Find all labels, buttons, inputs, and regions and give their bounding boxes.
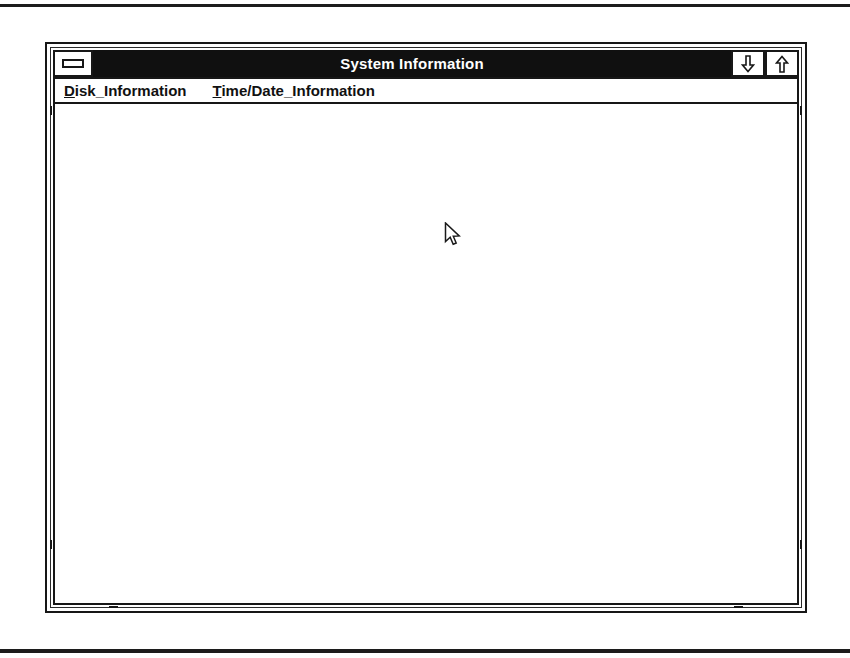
window-menu-button[interactable] — [53, 50, 93, 77]
page-rule-bottom — [0, 649, 850, 653]
minimize-button[interactable] — [731, 50, 765, 77]
titlebar-row: System Information — [53, 50, 799, 77]
system-information-window[interactable]: System Information Disk_Information Time… — [45, 42, 807, 613]
menu-item-disk-information-label: isk_Information — [75, 82, 187, 99]
menu-item-disk-information[interactable]: Disk_Information — [64, 83, 187, 98]
menubar: Disk_Information Time/Date_Information — [53, 77, 799, 104]
resize-handle-bottom-right[interactable] — [800, 540, 802, 549]
client-area[interactable] — [53, 104, 799, 605]
window-menu-bar-icon — [62, 59, 84, 68]
mouse-cursor — [444, 222, 461, 247]
titlebar[interactable]: System Information — [93, 50, 731, 77]
resize-handle-bottom-end[interactable] — [734, 606, 743, 608]
resize-handle-bottom-start[interactable] — [109, 606, 118, 608]
menu-item-time-date-information[interactable]: Time/Date_Information — [213, 83, 375, 98]
window-title: System Information — [340, 55, 484, 72]
arrow-up-icon — [775, 55, 789, 73]
resize-handle-top-left[interactable] — [50, 106, 52, 115]
maximize-button[interactable] — [765, 50, 799, 77]
page-rule-top — [0, 4, 850, 7]
resize-handle-top-right[interactable] — [800, 106, 802, 115]
arrow-down-icon — [741, 55, 755, 73]
resize-handle-bottom-left[interactable] — [50, 540, 52, 549]
arrow-pointer-icon — [444, 222, 461, 247]
menu-item-time-date-information-label: ime/Date_Information — [221, 82, 374, 99]
menu-item-disk-information-mnemonic: D — [64, 82, 75, 99]
